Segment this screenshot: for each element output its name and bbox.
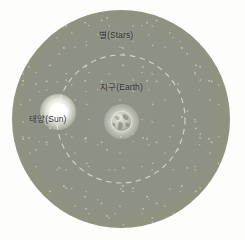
- label-earth: 지구(Earth): [100, 83, 143, 92]
- label-stars: 별(Stars): [99, 31, 133, 40]
- label-sun: 태양(Sun): [29, 115, 67, 124]
- earth-icon: [110, 110, 133, 133]
- solar-system-diagram: 별(Stars) 지구(Earth) 태양(Sun): [0, 0, 245, 240]
